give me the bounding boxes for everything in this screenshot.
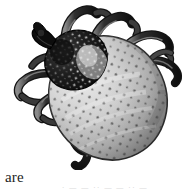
capitulum-mouthparts xyxy=(32,22,56,49)
clipped-caption-line: · — — ·· — — ·· — xyxy=(62,184,148,189)
page-canvas: are · — — ·· — — ·· — xyxy=(0,0,189,191)
tick-illustration xyxy=(0,0,189,170)
body-text-are: are xyxy=(5,169,24,185)
